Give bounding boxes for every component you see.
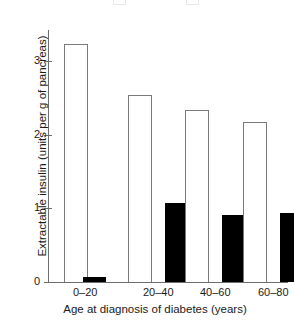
plot-area: 0123 Extractable insulin (units per g of…: [0, 0, 294, 326]
y-axis-line: [48, 30, 49, 283]
bar-filled: [83, 277, 106, 282]
y-axis-tick-label: 0: [26, 276, 40, 287]
bar-filled: [222, 215, 245, 282]
x-axis-line: [48, 282, 288, 283]
bar-open: [64, 44, 88, 282]
bar-open: [243, 122, 267, 282]
x-axis-tick-label: 20–40: [136, 286, 180, 298]
x-axis-title: Age at diagnosis of diabetes (years): [30, 303, 280, 316]
chart-figure: 0123 Extractable insulin (units per g of…: [0, 0, 294, 326]
x-axis-tick-label: 0–20: [63, 286, 107, 298]
y-axis-tick: [44, 282, 52, 283]
bar-open: [128, 95, 152, 282]
y-axis-title: Extractable insulin (units per g of panc…: [36, 21, 48, 271]
bar-open: [185, 110, 209, 282]
x-axis-tick-label: 60–80: [251, 286, 294, 298]
bar-filled: [280, 213, 294, 282]
x-axis-tick-label: 40–60: [193, 286, 237, 298]
